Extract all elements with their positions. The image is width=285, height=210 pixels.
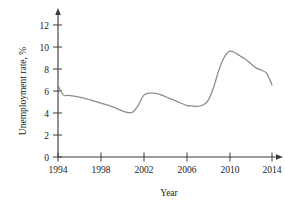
y-tick-label-0: 0 (44, 153, 49, 163)
y-tick-label-4: 4 (44, 109, 49, 119)
y-axis-title: Unemployment rate, % (18, 47, 28, 135)
chart-canvas: 0 2 4 6 8 10 12 1994 1998 2002 2006 2010… (0, 0, 285, 210)
unemployment-rate-chart: 0 2 4 6 8 10 12 1994 1998 2002 2006 2010… (0, 0, 285, 210)
x-tick-label-1994: 1994 (49, 165, 68, 175)
y-tick-label-10: 10 (40, 43, 50, 53)
x-tick-label-2002: 2002 (135, 165, 154, 175)
x-tick-label-2010: 2010 (221, 165, 240, 175)
y-tick-label-8: 8 (44, 65, 49, 75)
y-axis-arrow-icon (55, 8, 61, 15)
y-tick-label-12: 12 (40, 21, 50, 31)
x-tick-label-2006: 2006 (178, 165, 197, 175)
y-tick-label-2: 2 (44, 131, 49, 141)
y-tick-label-6: 6 (44, 87, 49, 97)
x-axis-arrow-icon (276, 154, 283, 160)
x-tick-label-2014: 2014 (263, 165, 282, 175)
x-tick-label-1998: 1998 (92, 165, 111, 175)
unemployment-rate-line (58, 51, 272, 113)
x-axis-title: Year (160, 188, 178, 198)
